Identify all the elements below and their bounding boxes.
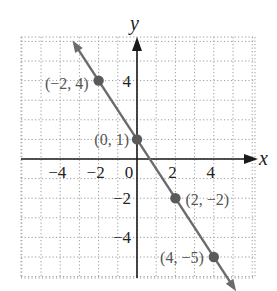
y-axis-arrow-icon xyxy=(132,37,142,51)
x-tick-label: 0 xyxy=(125,163,134,182)
data-point xyxy=(93,75,103,85)
line-arrow-down-icon xyxy=(226,279,236,291)
y-axis-label: y xyxy=(128,12,139,35)
data-point xyxy=(170,193,180,203)
x-tick-label: 2 xyxy=(168,163,177,182)
y-tick-label: −4 xyxy=(113,228,132,247)
x-tick-label: −2 xyxy=(87,163,105,182)
point-label: (0, 1) xyxy=(94,131,129,149)
x-axis-label: x xyxy=(258,147,268,169)
y-tick-label: −2 xyxy=(113,189,131,208)
x-axis-arrow-icon xyxy=(244,154,258,164)
data-point xyxy=(209,252,219,262)
coordinate-plane: −4−20244−2−4 (−2, 4)(0, 1)(2, −2)(4, −5)… xyxy=(0,0,277,291)
grid xyxy=(21,37,255,278)
x-tick-label: 4 xyxy=(207,163,216,182)
y-tick-label: 4 xyxy=(123,72,132,91)
axes xyxy=(21,37,258,278)
line-arrow-up-icon xyxy=(72,40,82,53)
point-label: (4, −5) xyxy=(160,249,204,267)
data-point xyxy=(132,134,142,144)
x-tick-label: −4 xyxy=(48,163,67,182)
point-label: (−2, 4) xyxy=(45,75,89,93)
point-label: (2, −2) xyxy=(185,191,229,209)
